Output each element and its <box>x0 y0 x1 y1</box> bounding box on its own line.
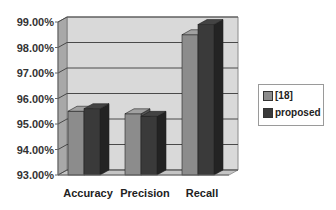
y-tick-label: 98.00% <box>0 42 54 54</box>
y-tick-label: 94.00% <box>0 144 54 156</box>
y-tick-label: 99.00% <box>0 16 54 28</box>
bar-recall-proposed <box>198 20 223 175</box>
legend-item-18: [18] <box>263 90 293 101</box>
legend-item-proposed: proposed <box>263 107 321 118</box>
legend-label: [18] <box>275 90 293 101</box>
legend-swatch-icon <box>263 108 273 118</box>
bar-accuracy-proposed <box>84 104 109 175</box>
x-axis-label: Precision <box>115 187 175 199</box>
y-tick-label: 96.00% <box>0 93 54 105</box>
y-tick-label: 93.00% <box>0 169 54 181</box>
y-tick-label: 95.00% <box>0 118 54 130</box>
legend: [18] proposed <box>258 84 324 126</box>
legend-swatch-icon <box>263 91 273 101</box>
y-tick-label: 97.00% <box>0 67 54 79</box>
x-axis-label: Recall <box>172 187 232 199</box>
bar-chart: 93.00%94.00%95.00%96.00%97.00%98.00%99.0… <box>0 0 336 210</box>
legend-label: proposed <box>275 107 321 118</box>
x-axis-label: Accuracy <box>58 187 118 199</box>
bar-precision-proposed <box>141 111 166 175</box>
